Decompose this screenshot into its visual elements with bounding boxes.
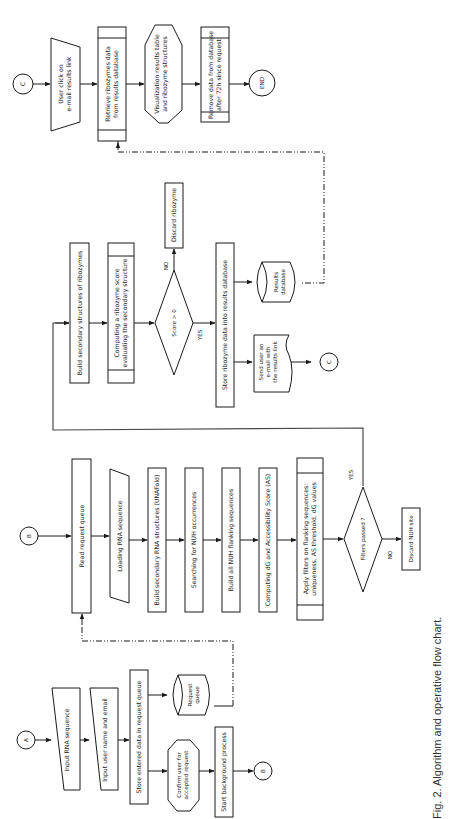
flowchart: C User click on e-mail results link Retr… [0, 0, 462, 819]
svg-text:queue: queue [194, 686, 201, 704]
yes-label: YES [197, 329, 203, 341]
end-terminal: END [249, 70, 275, 96]
svg-text:Searching for NUH occurrences: Searching for NUH occurrences [190, 492, 198, 589]
svg-text:Loading RNA sequence: Loading RNA sequence [116, 500, 124, 572]
connector-a: A [17, 731, 35, 749]
connector-c-results: C [13, 74, 33, 94]
svg-text:C: C [19, 82, 26, 86]
svg-text:uniqueness, AS threshold, dG v: uniqueness, AS threshold, dG values [310, 482, 318, 595]
svg-text:Apply filters on flanking sequ: Apply filters on flanking sequences: [302, 484, 310, 595]
svg-text:Score > 0: Score > 0 [171, 309, 177, 337]
svg-text:C: C [326, 360, 332, 364]
svg-text:Build all NUH flanking sequenc: Build all NUH flanking sequences [227, 489, 235, 591]
svg-text:Input user name and email: Input user name and email [101, 698, 109, 782]
filters-decision: Filters passed ? [344, 487, 382, 592]
svg-text:from results database: from results database [112, 50, 119, 118]
remove-data-step: Remove data from database after 72h sinc… [201, 27, 229, 122]
request-queue-db: Request queue [173, 675, 210, 715]
svg-text:A: A [23, 738, 29, 742]
input-rna-step: Input RNA sequence [52, 688, 80, 790]
yes-label: YES [348, 469, 354, 481]
connector-b-input: B [254, 762, 272, 780]
confirm-user-step: Confirm user for accepted request [168, 740, 199, 811]
svg-text:Build secondary structures of: Build secondary structures of ribozymes [76, 251, 84, 376]
svg-text:B: B [26, 534, 32, 538]
svg-text:accepted request: accepted request [183, 750, 190, 800]
svg-text:Retrieve ribozymes data: Retrieve ribozymes data [104, 46, 112, 122]
svg-text:Store ribozyme data into resul: Store ribozyme data into results databas… [221, 260, 229, 390]
svg-text:and ribozyme structures: and ribozyme structures [161, 36, 169, 112]
figure-caption: Fig. 2. Algorithm and operative flow cha… [431, 617, 443, 819]
send-email-step: Send user an e-mail with the results lin… [254, 335, 292, 392]
svg-text:the results link: the results link [272, 341, 278, 383]
loading-rna-step: Loading RNA sequence [110, 469, 129, 603]
no-label: NO [163, 261, 169, 270]
computing-score-step: Computing a ribozyme score evaluating th… [108, 243, 134, 383]
no-label: NO [387, 550, 393, 559]
svg-text:e-mail results link: e-mail results link [65, 56, 72, 111]
computing-dg-step: Computing dG and Accessibility Score (AS… [259, 468, 277, 612]
svg-text:Computing a ribozyme score: Computing a ribozyme score [113, 268, 121, 357]
discard-ribozyme-step: Discard ribozyme [165, 183, 183, 248]
svg-text:END: END [259, 77, 265, 89]
visualization-step: Visualization results table and ribozyme… [145, 25, 182, 123]
svg-text:B: B [260, 769, 266, 773]
svg-text:Input RNA sequence: Input RNA sequence [63, 708, 71, 771]
svg-text:after 72h since request: after 72h since request [215, 38, 223, 111]
svg-text:Results: Results [273, 272, 279, 292]
discard-nuh-step: Discard NUH site [402, 508, 420, 570]
svg-text:Store entered data in request: Store entered data in request queue [135, 680, 143, 793]
results-database: Results database [257, 262, 295, 302]
svg-text:database: database [280, 268, 286, 294]
svg-text:e-mail with: e-mail with [265, 346, 271, 378]
svg-text:Confirm user for: Confirm user for [176, 752, 182, 798]
connector-b-processing: B [20, 527, 38, 545]
search-nuh-step: Searching for NUH occurrences [185, 468, 203, 612]
retrieve-data-step: Retrieve ribozymes data from results dat… [98, 27, 126, 141]
user-click-step: User click on e-mail results link [51, 38, 80, 131]
loop-line-yes [53, 323, 363, 430]
read-queue-step: Read request queue [72, 459, 91, 613]
svg-text:Start background process: Start background process [220, 732, 228, 811]
apply-filters-step: Apply filters on flanking sequences: uni… [297, 458, 323, 620]
connector-c-email: C [320, 353, 338, 371]
svg-text:evaluating the secondary struc: evaluating the secondary structure [121, 258, 129, 367]
svg-text:Discard ribozyme: Discard ribozyme [170, 188, 178, 242]
build-flanking-step: Build all NUH flanking sequences [222, 468, 240, 612]
svg-text:Discard NUH site: Discard NUH site [408, 515, 414, 563]
svg-text:Read request queue: Read request queue [78, 505, 86, 568]
svg-text:Remove data from database: Remove data from database [207, 31, 214, 119]
svg-text:Build secondary RNA structures: Build secondary RNA structures (UNAFold) [153, 475, 161, 606]
build-ribozymes-step: Build secondary structures of ribozymes [70, 243, 89, 383]
svg-text:Send user an: Send user an [258, 343, 264, 380]
store-entered-step: Store entered data in request queue [130, 670, 148, 804]
score-decision: Score > 0 [155, 270, 193, 375]
svg-text:User click on: User click on [57, 64, 64, 104]
svg-text:Filters passed ?: Filters passed ? [360, 517, 367, 560]
input-user-step: Input user name and email [90, 688, 118, 790]
build-secondary-rna-step: Build secondary RNA structures (UNAFold) [148, 468, 166, 612]
svg-text:Computing dG and Accessibility: Computing dG and Accessibility Score (AS… [264, 474, 272, 607]
start-background-step: Start background process [215, 727, 233, 817]
svg-text:Request: Request [187, 683, 194, 707]
store-ribozyme-step: Store ribozyme data into results databas… [216, 243, 234, 407]
svg-text:Visualization results table: Visualization results table [153, 34, 160, 114]
document-page: C User click on e-mail results link Retr… [0, 0, 462, 819]
